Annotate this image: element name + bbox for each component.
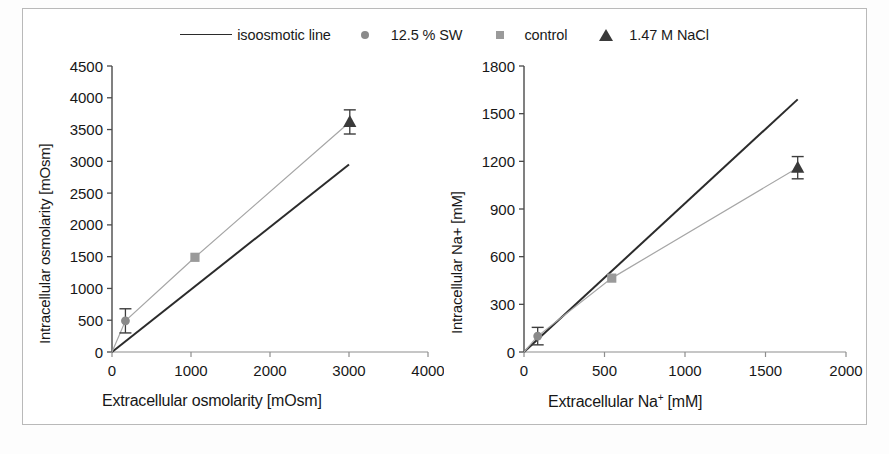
- data-point-12-5-sw: [121, 316, 130, 325]
- x-tick-label: 0: [520, 362, 528, 379]
- y-tick-label: 600: [490, 248, 515, 265]
- y-tick-label: 1500: [482, 105, 515, 122]
- x-tick-label: 1000: [174, 362, 207, 379]
- legend-entry-12-5-sw: 12.5 % SW: [331, 27, 463, 43]
- data-point-12-5-sw: [533, 332, 542, 341]
- y-tick-label: 0: [507, 344, 515, 361]
- y-tick-label: 1800: [482, 58, 515, 75]
- x-axis-label: Extracellular Na+ [mM]: [548, 392, 702, 411]
- x-tick-label: 500: [592, 362, 617, 379]
- y-tick-label: 3000: [70, 153, 103, 170]
- legend-entry-isoosmotic-line: isoosmotic line: [180, 27, 331, 43]
- y-tick-label: 500: [78, 312, 103, 329]
- legend-label: control: [524, 27, 567, 43]
- series-line-measured-trend: [524, 168, 798, 352]
- plot-area-sodium: 03006009001200150018000500100015002000: [438, 52, 866, 382]
- x-tick-label: 2000: [253, 362, 286, 379]
- square-marker-icon: [496, 31, 504, 39]
- plot-area-osmolarity: 0500100015002000250030003500400045000100…: [24, 52, 444, 382]
- triangle-marker-icon: [599, 29, 613, 41]
- y-tick-label: 4500: [70, 58, 103, 75]
- y-axis-label: Intracellular Na+ [mM]: [448, 191, 465, 334]
- chart-panel-osmolarity: Intracellular osmolarity [mOsm] 05001000…: [24, 52, 444, 417]
- y-tick-label: 4000: [70, 89, 103, 106]
- y-tick-label: 2500: [70, 185, 103, 202]
- line-key-icon: [180, 34, 232, 35]
- legend-label: isoosmotic line: [237, 27, 331, 43]
- data-point-1-47-m-nacl: [791, 161, 804, 173]
- y-tick-label: 900: [490, 201, 515, 218]
- y-tick-label: 2000: [70, 216, 103, 233]
- x-axis-label: Extracellular osmolarity [mOsm]: [102, 392, 322, 410]
- series-line-measured-trend: [112, 122, 350, 352]
- x-tick-label: 0: [108, 362, 116, 379]
- data-point-control: [607, 274, 616, 283]
- legend-label: 12.5 % SW: [391, 27, 463, 43]
- x-tick-label: 2000: [829, 362, 862, 379]
- legend-label: 1.47 M NaCl: [629, 27, 709, 43]
- y-tick-label: 1200: [482, 153, 515, 170]
- y-tick-label: 1500: [70, 248, 103, 265]
- legend-entry-nacl: 1.47 M NaCl: [567, 27, 709, 43]
- circle-marker-icon: [361, 31, 369, 39]
- legend-entry-control: control: [462, 27, 567, 43]
- chart-panel-sodium: Intracellular Na+ [mM] 03006009001200150…: [438, 52, 866, 417]
- data-point-control: [190, 253, 199, 262]
- x-tick-label: 3000: [332, 362, 365, 379]
- series-line-isoosmotic-line: [112, 165, 349, 352]
- figure-container: isoosmotic line 12.5 % SW control 1.47 M…: [0, 0, 889, 454]
- y-tick-label: 3500: [70, 121, 103, 138]
- x-tick-label: 1500: [749, 362, 782, 379]
- y-tick-label: 0: [95, 344, 103, 361]
- y-tick-label: 1000: [70, 280, 103, 297]
- x-tick-label: 1000: [668, 362, 701, 379]
- legend: isoosmotic line 12.5 % SW control 1.47 M…: [22, 20, 867, 50]
- y-tick-label: 300: [490, 296, 515, 313]
- y-axis-label: Intracellular osmolarity [mOsm]: [36, 143, 53, 344]
- data-point-1-47-m-nacl: [343, 115, 356, 127]
